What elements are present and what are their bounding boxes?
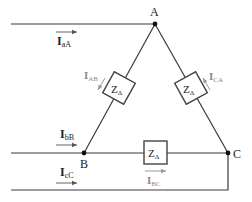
current-cC-label: IcC xyxy=(60,165,74,180)
node-a-dot xyxy=(153,22,158,27)
node-c-dot xyxy=(226,151,231,156)
node-a-label: A xyxy=(150,5,159,19)
current-CA-label: ICA xyxy=(209,70,223,84)
current-BC-label: IBC xyxy=(147,174,161,188)
impedance-ab xyxy=(103,72,136,105)
node-c-label: C xyxy=(233,147,241,161)
node-b-label: B xyxy=(80,157,88,171)
line-c-wire xyxy=(11,153,228,190)
current-bB-label: IbB xyxy=(60,127,74,142)
delta-load-diagram: ZΔ ZΔ ZΔ A B C IaA IbB IcC IAB ICA IBC xyxy=(0,0,252,202)
current-aA-label: IaA xyxy=(57,34,71,49)
impedance-ca xyxy=(175,72,208,105)
node-b-dot xyxy=(82,151,87,156)
current-AB-label: IAB xyxy=(84,69,98,83)
current-AB-arrow-icon xyxy=(98,78,105,90)
